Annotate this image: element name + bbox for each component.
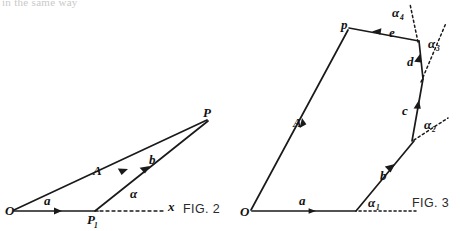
- fig3-vector-a-arrowhead: [309, 208, 316, 214]
- figure-page: in the same way O P P 1 a b A α x: [0, 0, 460, 231]
- fig2-label-b: b: [149, 152, 156, 167]
- fig2-label-A: A: [92, 163, 102, 178]
- fig3-label-A: A: [292, 115, 302, 130]
- fig3-label-alpha2-subscript: 2: [431, 125, 436, 134]
- fig3-label-alpha3-subscript: 3: [435, 44, 440, 53]
- fig3-label-alpha2: α: [424, 117, 432, 132]
- fig2-label-P1-subscript: 1: [94, 221, 98, 230]
- fig2-label-O: O: [5, 203, 15, 218]
- fig3-caption: FIG. 3: [412, 196, 449, 210]
- fig3-label-e: e: [389, 25, 395, 40]
- fig3-label-O: O: [240, 204, 250, 219]
- fig3-vector-e-line: [349, 28, 419, 41]
- fig3-label-alpha4: α: [392, 5, 400, 20]
- fig3-label-alpha3: α: [428, 36, 436, 51]
- fig3-label-p: p: [340, 17, 348, 32]
- fig3-vector-c-line: [412, 79, 423, 141]
- fig3-label-a: a: [299, 193, 306, 208]
- fig3-label-d: d: [407, 54, 414, 69]
- fig2-label-alpha: α: [130, 186, 138, 201]
- fig3-label-alpha4-subscript: 4: [399, 13, 404, 22]
- figures-canvas: O P P 1 a b A α x FIG. 2: [0, 0, 460, 231]
- figure-3-group: O p a b c d e A α 1 α 2 α 3 α 4 FIG. 3: [240, 4, 449, 219]
- fig2-vector-a-arrowhead: [54, 208, 62, 215]
- figure-2-group: O P P 1 a b A α x FIG. 2: [5, 105, 220, 230]
- fig2-label-a: a: [44, 193, 51, 208]
- fig3-label-alpha1-subscript: 1: [376, 203, 380, 212]
- fig3-alpha3-dashed-extension: [421, 23, 446, 82]
- fig3-label-alpha1: α: [368, 195, 376, 210]
- fig2-vector-A-arrowhead: [118, 168, 128, 175]
- fig2-vector-A-line: [14, 120, 207, 210]
- fig2-vector-b-arrowhead: [140, 166, 150, 173]
- fig2-caption: FIG. 2: [183, 202, 220, 216]
- fig3-label-b: b: [380, 168, 387, 183]
- fig3-alpha4-dashed-extension: [410, 4, 418, 42]
- fig3-label-c: c: [402, 103, 408, 118]
- fig2-label-x-axis: x: [167, 199, 175, 214]
- fig2-label-P: P: [203, 105, 212, 120]
